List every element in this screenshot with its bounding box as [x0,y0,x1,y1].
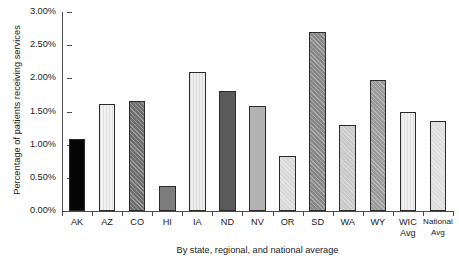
x-tick-label-line: Avg [393,228,423,239]
x-tick-label-line: HI [152,217,182,228]
x-tick-label: SD [303,217,333,228]
x-tick-label-line: IA [182,217,212,228]
bar [69,139,86,211]
x-tick-label-line: WY [363,217,393,228]
x-tick-label: NationalAvg [423,217,453,238]
bar-chart: Percentage of patients receiving service… [0,0,459,263]
x-tick-mark [333,211,334,216]
bar [159,186,176,211]
x-tick-mark [363,211,364,216]
x-tick-label-line: Avg [423,228,453,239]
bar [219,91,236,211]
x-tick-label-line: WIC [393,217,423,228]
x-tick-mark [182,211,183,216]
plot-area [62,12,453,211]
x-tick-mark [453,211,454,216]
y-tick-label: 0.00% [10,206,56,215]
x-tick-mark [122,211,123,216]
x-tick-label: WICAvg [393,217,423,238]
bar [430,121,447,211]
y-tick-label: 2.00% [10,73,56,82]
x-tick-label: WA [333,217,363,228]
x-tick-label: WY [363,217,393,228]
x-tick-label-line: NV [242,217,272,228]
bar [99,104,116,211]
x-tick-label: IA [182,217,212,228]
x-tick-label-line: ND [212,217,242,228]
bar [189,72,206,211]
y-axis-tick-labels: 0.00%0.50%1.00%1.50%2.00%2.50%3.00% [10,0,56,263]
bar [309,32,326,211]
x-tick-label: CO [122,217,152,228]
x-tick-label-line: National [423,217,453,228]
x-tick-label: AK [62,217,92,228]
x-axis-title: By state, regional, and national average [62,245,453,255]
x-tick-mark [273,211,274,216]
bar [339,125,356,211]
x-tick-label: NV [242,217,272,228]
x-tick-label-line: OR [273,217,303,228]
x-tick-label-line: CO [122,217,152,228]
x-tick-label-line: AK [62,217,92,228]
y-tick-label: 3.00% [10,7,56,16]
x-tick-mark [62,211,63,216]
x-tick-mark [92,211,93,216]
bar [400,112,417,211]
x-tick-label-line: SD [303,217,333,228]
x-tick-label: OR [273,217,303,228]
x-tick-label-line: WA [333,217,363,228]
y-tick-label: 1.00% [10,140,56,149]
x-tick-mark [393,211,394,216]
bar [249,106,266,211]
x-tick-mark [152,211,153,216]
x-tick-label: HI [152,217,182,228]
x-tick-mark [212,211,213,216]
y-tick-label: 1.50% [10,107,56,116]
y-tick-label: 2.50% [10,40,56,49]
bar [279,156,296,211]
x-tick-mark [242,211,243,216]
bar [370,80,387,211]
x-tick-mark [303,211,304,216]
x-tick-label: ND [212,217,242,228]
x-tick-mark [423,211,424,216]
x-tick-label: AZ [92,217,122,228]
x-axis-line [62,211,453,212]
x-tick-label-line: AZ [92,217,122,228]
y-tick-label: 0.50% [10,173,56,182]
bar [129,101,146,211]
